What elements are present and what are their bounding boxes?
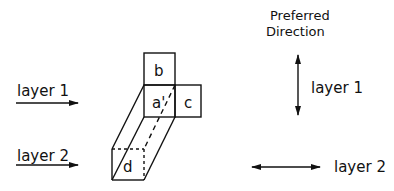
layer2-direction: layer 2: [252, 158, 386, 176]
layer2-direction-label: layer 2: [334, 158, 386, 176]
layer1-left-label: layer 1: [17, 82, 69, 100]
layer1-direction-label: layer 1: [311, 79, 363, 97]
layer2-input-arrow: layer 2: [16, 147, 78, 165]
layer1-input-arrow: layer 1: [16, 82, 78, 103]
layer2-left-label: layer 2: [17, 147, 69, 165]
preferred-direction-title-line1: Preferred: [270, 8, 330, 23]
cell-a-label: a': [152, 94, 165, 112]
cell-c-label: c: [184, 94, 192, 112]
via-diagram: layer 1 layer 2 b a' c d: [0, 0, 394, 191]
layer1-direction: layer 1: [298, 55, 363, 115]
preferred-direction-title-line2: Direction: [266, 24, 325, 39]
cell-b-label: b: [154, 62, 164, 80]
cell-d-label: d: [123, 158, 133, 176]
